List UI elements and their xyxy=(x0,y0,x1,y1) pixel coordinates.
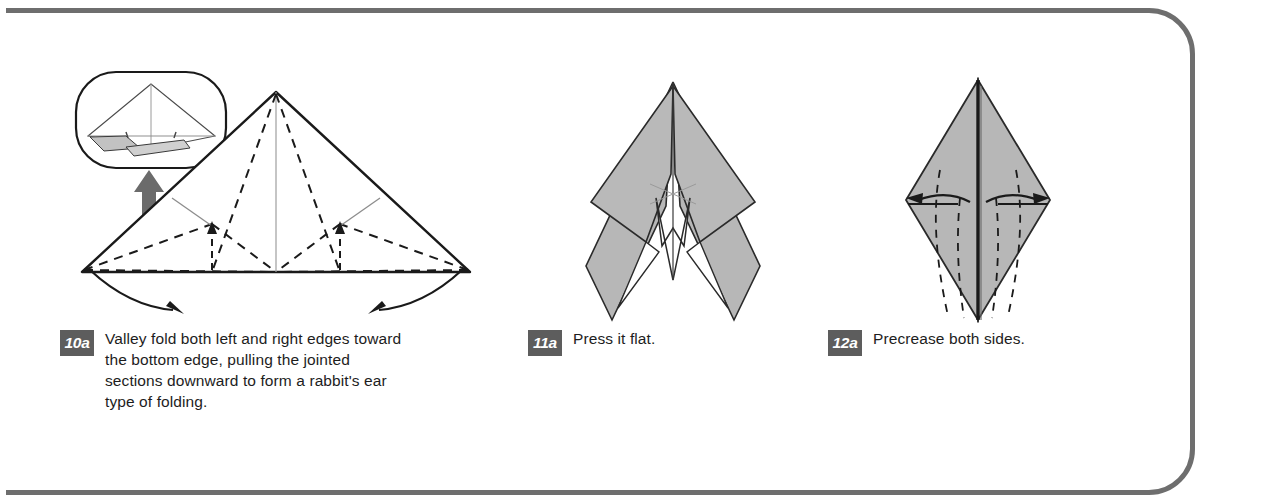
frame-left-mask xyxy=(0,0,6,503)
figure-11a xyxy=(528,52,818,324)
diamond-precrease-diagram xyxy=(828,52,1128,324)
perspective-inset-bubble xyxy=(76,72,226,168)
step-text-10a: Valley fold both left and right edges to… xyxy=(105,328,405,412)
figure-10a xyxy=(60,52,490,324)
flat-model-11a xyxy=(586,82,760,320)
step-block-11a: 11a Press it flat. xyxy=(528,52,818,356)
curved-arrow-right-path xyxy=(379,270,462,310)
pressed-flat-arrow-shape-diagram xyxy=(528,52,818,324)
triangle-with-rabbit-ear-creases-diagram xyxy=(60,52,490,324)
curved-arrow-left-path xyxy=(90,270,173,310)
curved-arrow-left xyxy=(90,270,184,314)
caption-11a: 11a Press it flat. xyxy=(528,328,818,356)
step-text-12a: Precrease both sides. xyxy=(873,328,1025,349)
diamond-model-12a xyxy=(906,80,1050,320)
step-badge-12a: 12a xyxy=(828,330,862,356)
step-badge-10a: 10a xyxy=(60,330,94,356)
step-block-12a: 12a Precrease both sides. xyxy=(828,52,1128,356)
step-text-11a: Press it flat. xyxy=(573,328,655,349)
caption-10a: 10a Valley fold both left and right edge… xyxy=(60,328,490,412)
figure-12a xyxy=(828,52,1128,324)
curved-arrow-right xyxy=(368,270,462,314)
caption-12a: 12a Precrease both sides. xyxy=(828,328,1128,356)
step-block-10a: 10a Valley fold both left and right edge… xyxy=(60,52,490,412)
curved-arrow-left-head xyxy=(166,301,184,314)
step-badge-11a: 11a xyxy=(528,330,562,356)
curved-arrow-right-head xyxy=(368,301,386,314)
